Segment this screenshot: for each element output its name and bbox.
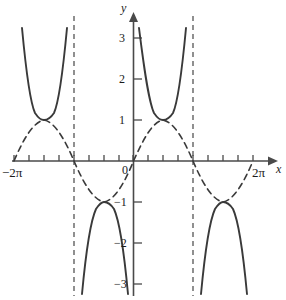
cosine-segment-4 <box>193 161 253 202</box>
x-axis-label: x <box>276 163 281 175</box>
secant-branch-left-upper <box>22 28 67 120</box>
y-tick-label-1: 1 <box>119 114 125 126</box>
secant-branch-center-upper <box>139 28 186 120</box>
x-tick-label-left: −2π <box>2 166 22 179</box>
y-tick-label-2: 2 <box>119 73 125 85</box>
origin-label: 0 <box>122 164 128 176</box>
y-tick-label-minus-2: −2 <box>114 237 127 249</box>
y-tick-label-minus-3: −3 <box>114 278 127 290</box>
y-axis-label: y <box>121 2 126 14</box>
y-tick-label-minus-1: −1 <box>114 196 127 208</box>
cosine-segment-3 <box>134 120 194 161</box>
x-axis-group <box>12 155 278 166</box>
secant-branch-right-lower <box>201 202 247 294</box>
plot-canvas <box>0 0 286 300</box>
cosine-segment-1 <box>14 120 74 161</box>
y-tick-label-3: 3 <box>119 32 125 44</box>
secant-graph-figure: y x 0 −2π 2π 3 2 1 −1 −2 −3 <box>0 0 286 300</box>
x-tick-label-right: 2π <box>252 166 265 179</box>
y-axis-group <box>129 12 142 296</box>
y-axis-arrowhead <box>129 12 138 22</box>
